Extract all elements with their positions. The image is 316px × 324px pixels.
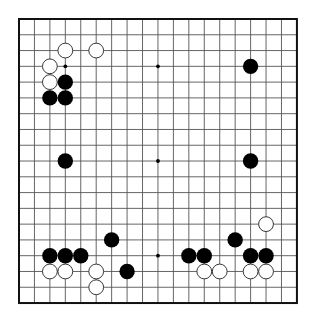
black-stone <box>258 248 273 263</box>
go-board <box>0 0 316 324</box>
black-stone <box>243 153 258 168</box>
white-stone <box>42 59 57 74</box>
black-stone <box>58 248 73 263</box>
white-stone <box>243 264 258 279</box>
black-stone <box>42 90 57 105</box>
go-board-grid[interactable] <box>0 0 316 324</box>
white-stone <box>42 264 57 279</box>
black-stone <box>197 248 212 263</box>
white-stone <box>58 264 73 279</box>
white-stone <box>259 264 274 279</box>
white-stone <box>89 280 104 295</box>
white-stone <box>89 43 104 58</box>
star-point-icon <box>156 64 160 68</box>
black-stone <box>243 248 258 263</box>
star-point-icon <box>156 254 160 258</box>
star-point-icon <box>156 159 160 163</box>
black-stone <box>243 59 258 74</box>
black-stone <box>119 264 134 279</box>
black-stone <box>104 232 119 247</box>
black-stone <box>58 74 73 89</box>
black-stone <box>227 232 242 247</box>
black-stone <box>58 153 73 168</box>
black-stone <box>42 248 57 263</box>
black-stone <box>181 248 196 263</box>
white-stone <box>197 264 212 279</box>
white-stone <box>259 217 274 232</box>
white-stone <box>89 264 104 279</box>
white-stone <box>42 75 57 90</box>
white-stone <box>58 43 73 58</box>
black-stone <box>73 248 88 263</box>
black-stone <box>58 90 73 105</box>
white-stone <box>212 264 227 279</box>
star-point-icon <box>63 64 67 68</box>
